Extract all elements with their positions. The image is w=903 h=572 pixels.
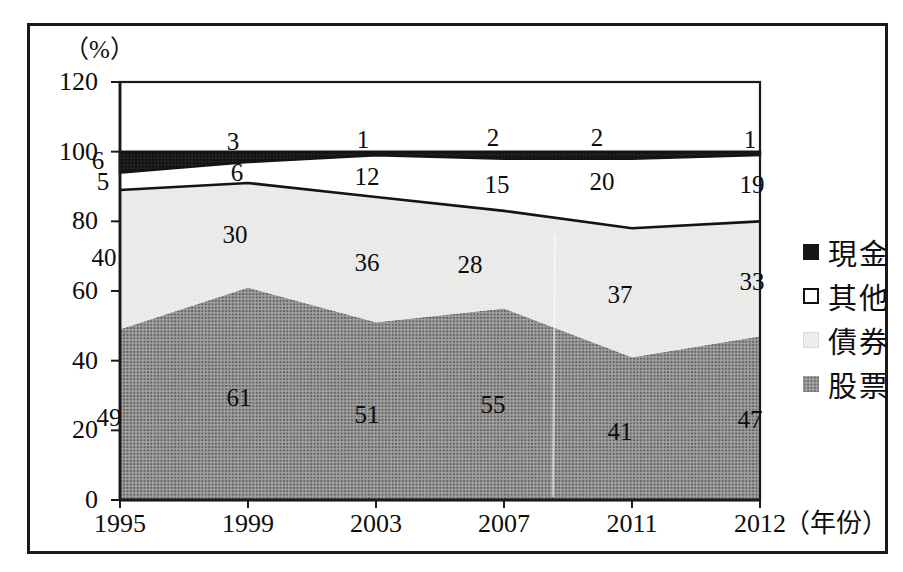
data-label-other-2007: 15 (465, 170, 529, 200)
data-label-cash-2003: 1 (331, 125, 395, 155)
data-label-bond-1999: 30 (203, 220, 267, 250)
x-tick-label-1999: 1999 (193, 509, 303, 539)
data-label-cash-2007: 2 (461, 123, 525, 153)
data-label-bond-2003: 36 (335, 248, 399, 278)
x-tick-label-2007: 2007 (449, 509, 559, 539)
y-tick-label-60: 60 (30, 275, 98, 307)
data-label-other-2011: 20 (570, 167, 634, 197)
data-label-other-2003: 12 (335, 162, 399, 192)
legend-label-other: 其他 (828, 275, 890, 317)
legend-label-cash: 現金 (828, 231, 890, 273)
x-tick-label-2003: 2003 (321, 509, 431, 539)
data-label-stock-1995: 49 (77, 403, 141, 433)
y-tick-label-80: 80 (30, 205, 98, 237)
legend-item-other: 其他 (803, 281, 890, 311)
x-tick-label-2011: 2011 (577, 509, 687, 539)
data-label-stock-2011: 41 (588, 417, 652, 447)
legend-item-bond: 債券 (803, 325, 890, 355)
data-label-stock-2003: 51 (335, 400, 399, 430)
chart-figure: （%） （年份） 020406080100120 199519992003200… (0, 0, 903, 572)
legend-label-stock: 股票 (828, 363, 890, 405)
data-label-cash-1999: 3 (201, 127, 265, 157)
cash-swatch-icon (803, 244, 819, 260)
other-swatch-icon (803, 288, 819, 304)
data-label-stock-2007: 55 (461, 390, 525, 420)
data-label-bond-2012: 33 (720, 267, 784, 297)
data-label-other-1999: 6 (205, 158, 269, 188)
legend-item-stock: 股票 (803, 369, 890, 399)
x-tick-label-2012: 2012 (705, 509, 815, 539)
data-label-cash-2012: 1 (718, 125, 782, 155)
data-label-bond-2011: 37 (588, 280, 652, 310)
data-label-cash-1995: 6 (66, 146, 130, 176)
data-label-stock-2012: 47 (718, 405, 782, 435)
legend-item-cash: 現金 (803, 237, 890, 267)
data-label-cash-2011: 2 (565, 123, 629, 153)
stock-swatch-icon (803, 376, 819, 392)
x-tick-label-1995: 1995 (65, 509, 175, 539)
bond-swatch-icon (803, 332, 819, 348)
y-tick-label-120: 120 (30, 66, 98, 98)
chart-legend: 現金 其他 債券 股票 (803, 237, 890, 413)
data-label-bond-2007: 28 (438, 250, 502, 280)
legend-label-bond: 債券 (828, 319, 890, 361)
data-label-stock-1999: 61 (207, 383, 271, 413)
y-axis-unit-label: （%） (64, 36, 135, 64)
data-label-bond-1995: 40 (72, 243, 136, 273)
y-tick-label-40: 40 (30, 345, 98, 377)
data-label-other-2012: 19 (720, 170, 784, 200)
